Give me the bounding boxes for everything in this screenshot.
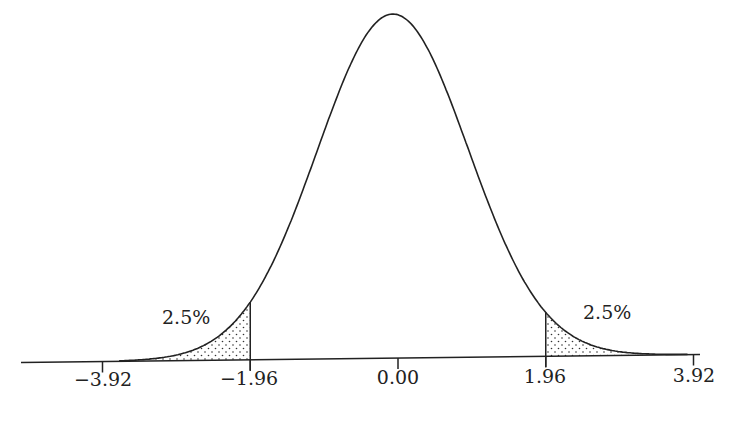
tick-label-1-96: 1.96 (524, 365, 566, 387)
tick-label-neg-3-92: −3.92 (74, 368, 132, 390)
left-tail-percent-label: 2.5% (162, 306, 210, 328)
normal-distribution-chart (0, 0, 732, 421)
tick-label-neg-1-96: −1.96 (220, 367, 278, 389)
tick-label-0-00: 0.00 (377, 366, 419, 388)
tick-label-3-92: 3.92 (673, 364, 715, 386)
right-tail-percent-label: 2.5% (583, 301, 631, 323)
